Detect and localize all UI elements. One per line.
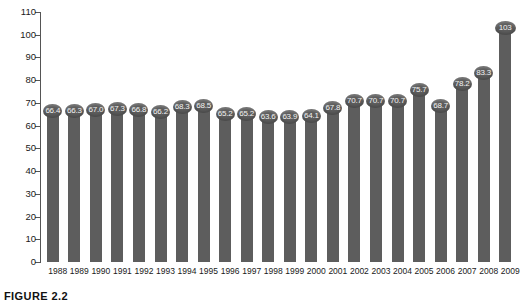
bar-column: 65.2 (239, 12, 251, 262)
bar-stem (478, 73, 490, 262)
bar-value-marker: 103 (495, 21, 516, 35)
bar-value-marker: 75.7 (410, 83, 429, 97)
bar-stem (370, 101, 382, 262)
bar-column: 65.2 (217, 12, 229, 262)
bar-stem (47, 111, 59, 262)
bar-value-marker: 67.3 (108, 102, 127, 116)
bar-stem (327, 108, 339, 262)
bar-column: 67.0 (88, 12, 100, 262)
bar-value-marker: 70.7 (388, 94, 407, 108)
x-axis-label: 2009 (497, 265, 523, 277)
bar-stem (90, 110, 102, 262)
bar-stem (176, 107, 188, 262)
bar-column: 66.3 (66, 12, 78, 262)
y-tick-label: 40 (25, 164, 36, 177)
x-axis-labels: 1988198919901991199219931994199519961997… (41, 265, 515, 279)
bar-value-marker: 67.0 (86, 103, 105, 117)
bar-value-marker: 70.7 (345, 94, 364, 108)
bar-stem (305, 116, 317, 262)
chart-plot-area: 0102030405060708090100110 66.466.367.067… (40, 12, 515, 262)
y-tick-label: 90 (25, 50, 36, 63)
bar-column: 63.9 (282, 12, 294, 262)
bar-value-marker: 66.4 (43, 104, 62, 118)
bar-value-marker: 78.2 (453, 77, 472, 91)
bar-column: 64.1 (303, 12, 315, 262)
bar-value-marker: 63.9 (280, 110, 299, 124)
bar-column: 70.7 (390, 12, 402, 262)
bar-column: 75.7 (411, 12, 423, 262)
bar-value-marker: 65.2 (237, 107, 256, 121)
bar-column: 70.7 (346, 12, 358, 262)
y-tick-label: 20 (25, 210, 36, 223)
bar-stem (456, 84, 468, 262)
bar-value-marker: 64.1 (302, 109, 321, 123)
bar-stem (262, 117, 274, 262)
bar-stem (133, 110, 145, 262)
bar-value-marker: 83.3 (474, 66, 493, 80)
bar-stem (392, 101, 404, 262)
bar-column: 63.6 (260, 12, 272, 262)
bar-stem (198, 106, 210, 262)
figure-container: 0102030405060708090100110 66.466.367.067… (0, 0, 523, 302)
bar-column: 66.2 (153, 12, 165, 262)
figure-caption: FIGURE 2.2 (4, 290, 68, 302)
bar-column: 67.8 (325, 12, 337, 262)
bar-stem (435, 106, 447, 262)
bar-column: 67.3 (109, 12, 121, 262)
bar-column: 66.8 (131, 12, 143, 262)
bar-value-marker: 66.8 (129, 103, 148, 117)
y-tick-label: 100 (20, 28, 36, 41)
bar-value-marker: 66.3 (65, 104, 84, 118)
y-tick-label: 30 (25, 187, 36, 200)
bar-column: 68.7 (433, 12, 445, 262)
bar-column: 68.5 (196, 12, 208, 262)
y-tick-label: 60 (25, 119, 36, 132)
bar-column: 68.3 (174, 12, 186, 262)
bar-value-marker: 68.5 (194, 99, 213, 113)
bar-stem (68, 111, 80, 262)
bar-value-marker: 66.2 (151, 105, 170, 119)
bar-column: 70.7 (368, 12, 380, 262)
bar-column: 103 (497, 12, 509, 262)
bar-value-marker: 68.7 (431, 99, 450, 113)
bar-value-marker: 68.3 (173, 100, 192, 114)
bar-stem (219, 114, 231, 262)
y-tick-label: 80 (25, 73, 36, 86)
bar-stem (241, 114, 253, 262)
bar-series: 66.466.367.067.366.866.268.368.565.265.2… (41, 12, 515, 262)
bar-value-marker: 67.8 (323, 101, 342, 115)
y-tick-label: 110 (21, 5, 36, 18)
bar-stem (155, 112, 167, 262)
bar-stem (111, 109, 123, 262)
bar-stem (499, 28, 511, 262)
bar-stem (284, 117, 296, 262)
bar-stem (348, 101, 360, 262)
bar-value-marker: 63.6 (259, 110, 278, 124)
y-tick-label: 50 (25, 141, 36, 154)
bar-stem (413, 90, 425, 262)
bar-column: 83.3 (476, 12, 488, 262)
bar-value-marker: 65.2 (216, 107, 235, 121)
bar-value-marker: 70.7 (366, 94, 385, 108)
y-tick-label: 70 (25, 96, 36, 109)
bar-column: 66.4 (45, 12, 57, 262)
y-tick-label: 0 (31, 255, 36, 268)
bar-column: 78.2 (454, 12, 466, 262)
y-tick-label: 10 (25, 232, 36, 245)
